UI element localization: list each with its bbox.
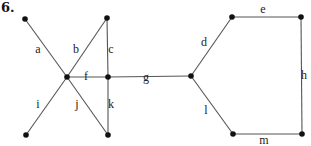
edge-a [25, 19, 67, 77]
edge-label-j: j [74, 97, 78, 111]
edge-label-f: f [84, 69, 88, 83]
edge-label-k: k [108, 97, 114, 111]
vertex-n9 [298, 14, 304, 20]
edge-label-m: m [259, 133, 269, 146]
vertex-n3 [64, 74, 70, 80]
vertex-n4 [105, 74, 111, 80]
edge-label-e: e [260, 2, 265, 16]
vertex-n8 [229, 14, 235, 20]
edge-label-g: g [143, 70, 149, 84]
vertex-n7 [188, 73, 194, 79]
vertex-n6 [105, 132, 111, 138]
edge-label-b: b [73, 42, 79, 56]
vertex-n11 [299, 131, 305, 137]
edge-i [26, 77, 67, 135]
edge-l [191, 76, 233, 134]
edge-label-d: d [201, 35, 207, 49]
edge-label-c: c [108, 42, 113, 56]
vertex-n5 [23, 132, 29, 138]
vertex-n2 [104, 15, 110, 21]
edge-label-h: h [301, 68, 307, 82]
graph-diagram: abcfgijkdehlm [0, 0, 311, 146]
edge-d [191, 17, 232, 76]
edge-g [108, 76, 191, 77]
edge-label-i: i [36, 97, 40, 111]
edge-label-l: l [204, 103, 208, 117]
vertex-n10 [230, 131, 236, 137]
edge-j [67, 77, 108, 135]
vertex-n1 [22, 16, 28, 22]
edge-label-a: a [35, 42, 41, 56]
